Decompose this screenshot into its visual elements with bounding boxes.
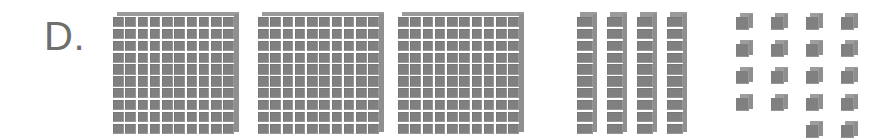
unit-square [398, 53, 409, 63]
tens-rod[interactable] [667, 12, 687, 134]
unit-square [270, 17, 281, 27]
unit-square [162, 100, 173, 110]
unit-square [199, 53, 210, 63]
unit-square [199, 112, 210, 122]
ones-unit-cube[interactable] [806, 121, 823, 138]
unit-square [577, 41, 593, 51]
unit-side-edge [784, 68, 788, 82]
flat-side-edge [519, 14, 524, 132]
unit-square [319, 29, 330, 39]
unit-square [258, 17, 269, 27]
ones-unit-cube[interactable] [841, 121, 858, 138]
unit-square [484, 41, 495, 51]
unit-square [447, 88, 458, 98]
unit-square [637, 53, 653, 63]
ones-unit-cube[interactable] [841, 13, 858, 30]
unit-square [508, 124, 519, 134]
unit-square [223, 112, 234, 122]
unit-square [459, 100, 470, 110]
unit-square [484, 53, 495, 63]
unit-square [368, 124, 379, 134]
unit-front-face [771, 71, 784, 84]
tens-rod[interactable] [577, 12, 597, 134]
unit-square [113, 41, 124, 51]
ones-unit-cube[interactable] [806, 40, 823, 57]
unit-square [637, 112, 653, 122]
unit-square [125, 29, 136, 39]
hundreds-flat[interactable] [258, 12, 384, 134]
unit-square [332, 17, 343, 27]
unit-square [344, 76, 355, 86]
unit-square [472, 124, 483, 134]
unit-square [211, 17, 222, 27]
unit-square [307, 100, 318, 110]
ones-unit-cube[interactable] [771, 94, 788, 111]
ones-unit-cube[interactable] [806, 94, 823, 111]
unit-square [307, 64, 318, 74]
unit-square [332, 41, 343, 51]
unit-square [162, 29, 173, 39]
ones-unit-cube[interactable] [841, 94, 858, 111]
unit-square [398, 29, 409, 39]
unit-square [447, 53, 458, 63]
ones-unit-cube[interactable] [736, 13, 753, 30]
unit-side-edge [749, 68, 753, 82]
unit-square [398, 124, 409, 134]
ones-unit-cube[interactable] [771, 40, 788, 57]
unit-square [270, 29, 281, 39]
ones-unit-cube[interactable] [806, 67, 823, 84]
unit-square [211, 100, 222, 110]
unit-square [508, 41, 519, 51]
tens-rod[interactable] [607, 12, 627, 134]
ones-unit-cube[interactable] [736, 67, 753, 84]
unit-square [410, 76, 421, 86]
ones-unit-cube[interactable] [736, 40, 753, 57]
unit-square [667, 88, 683, 98]
ones-unit-cube[interactable] [771, 13, 788, 30]
unit-square [356, 41, 367, 51]
unit-square [637, 29, 653, 39]
unit-square [270, 88, 281, 98]
unit-square [423, 41, 434, 51]
unit-front-face [736, 17, 749, 30]
ones-unit-cube[interactable] [841, 67, 858, 84]
unit-square [637, 124, 653, 134]
unit-square [344, 100, 355, 110]
unit-square [484, 17, 495, 27]
unit-front-face [841, 125, 854, 138]
unit-square [435, 64, 446, 74]
hundreds-flat[interactable] [398, 12, 524, 134]
unit-square [270, 41, 281, 51]
ones-unit-cube[interactable] [806, 13, 823, 30]
unit-square [332, 76, 343, 86]
unit-square [319, 76, 330, 86]
unit-square [270, 64, 281, 74]
unit-square [258, 29, 269, 39]
hundreds-flat[interactable] [113, 12, 239, 134]
unit-square [258, 76, 269, 86]
unit-square [138, 64, 149, 74]
unit-square [435, 17, 446, 27]
unit-square [223, 100, 234, 110]
ones-unit-cube[interactable] [736, 94, 753, 111]
unit-square [607, 100, 623, 110]
unit-square [607, 88, 623, 98]
unit-square [150, 53, 161, 63]
unit-square [258, 64, 269, 74]
ones-unit-cube[interactable] [841, 40, 858, 57]
unit-square [496, 41, 507, 51]
unit-square [113, 53, 124, 63]
unit-square [577, 17, 593, 27]
unit-square [508, 17, 519, 27]
unit-square [113, 124, 124, 134]
unit-square [162, 76, 173, 86]
unit-square [113, 100, 124, 110]
unit-square [496, 29, 507, 39]
unit-square [332, 112, 343, 122]
tens-rod[interactable] [637, 12, 657, 134]
unit-square [199, 41, 210, 51]
unit-square [398, 76, 409, 86]
unit-square [211, 53, 222, 63]
ones-unit-cube[interactable] [771, 67, 788, 84]
unit-square [223, 76, 234, 86]
